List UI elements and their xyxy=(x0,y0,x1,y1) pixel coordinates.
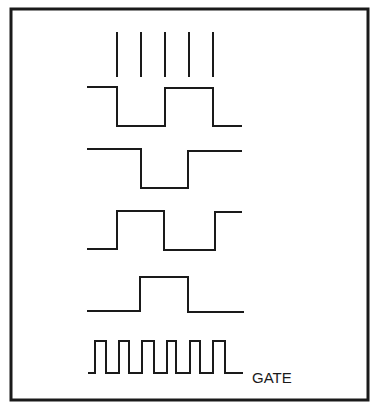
waveform-1 xyxy=(88,87,241,126)
waveform-4 xyxy=(88,277,243,312)
clock-ticks xyxy=(117,32,213,77)
gate-label: GATE xyxy=(252,369,292,386)
waveforms xyxy=(88,87,243,373)
waveform-3 xyxy=(88,211,241,250)
gate-waveform xyxy=(89,341,242,373)
waveform-2 xyxy=(88,149,241,188)
timing-diagram: GATE xyxy=(0,0,377,406)
